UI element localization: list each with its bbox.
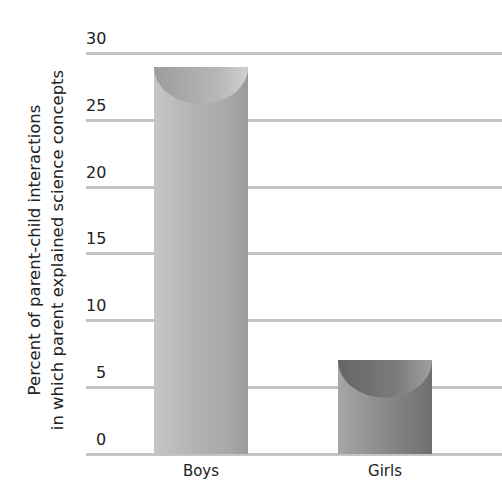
y-tick-10: 10 (86, 296, 126, 315)
gridline-30 (86, 52, 502, 55)
y-tick-25: 25 (86, 96, 126, 115)
y-tick-5: 5 (96, 363, 136, 382)
gridline-20 (86, 186, 502, 189)
y-tick-0: 0 (96, 430, 136, 449)
y-tick-20: 20 (86, 163, 126, 182)
y-axis-label-line-1: Percent of parent-child interactions (23, 70, 46, 430)
bar-boys-cap (154, 67, 248, 104)
bar-girls (338, 360, 432, 454)
bar-boys (154, 67, 248, 454)
gridline-25 (86, 119, 502, 122)
gridline-15 (86, 252, 502, 255)
y-axis-label: Percent of parent-child interactions in … (0, 0, 90, 503)
plot-area: 30 25 20 15 10 5 0 Boys Girls (86, 0, 502, 503)
gridline-10 (86, 319, 502, 322)
y-axis-label-line-2: in which parent explained science concep… (46, 70, 69, 430)
x-label-boys: Boys (151, 462, 251, 480)
bar-girls-cap (338, 360, 432, 398)
x-label-girls: Girls (335, 462, 435, 480)
gridline-5 (86, 386, 502, 389)
y-tick-15: 15 (86, 229, 126, 248)
y-tick-30: 30 (86, 29, 126, 48)
gridline-0 (86, 453, 502, 456)
